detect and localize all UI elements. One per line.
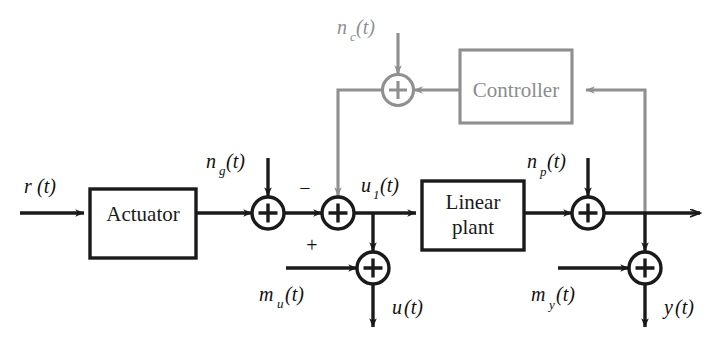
block-linear-plant: Linear plant [422, 181, 524, 250]
label-plant-noise-sub: p [539, 164, 547, 179]
summing-junction-error [322, 197, 354, 229]
label-control-input-arg: (t) [380, 174, 399, 197]
summing-junction-input-measurement [357, 252, 389, 284]
summing-junction-output-measurement [629, 252, 661, 284]
label-control-input-base: u [361, 174, 371, 196]
error-sum-minus-sign: − [299, 177, 310, 199]
block-controller: Controller [460, 50, 572, 123]
label-control-input-sub: 1 [373, 187, 380, 202]
error-sum-plus-sign: + [306, 234, 317, 256]
block-controller-label: Controller [473, 78, 559, 102]
label-measured-input-base: u [392, 296, 402, 318]
label-input-measurement-arg: (t) [285, 283, 304, 306]
label-output-measurement-sub: y [547, 297, 555, 312]
label-controller-noise-base: n [337, 16, 347, 38]
label-measured-input-arg: (t) [404, 296, 423, 319]
summing-junction-plant-noise [572, 197, 604, 229]
label-plant-noise-base: n [527, 150, 537, 172]
block-linear-plant-label-line2: plant [452, 215, 494, 239]
label-measured-input: u (t) [392, 296, 423, 319]
label-reference-base: r [24, 175, 32, 197]
label-reference: r (t) [24, 175, 56, 198]
label-input-measurement-base: m [259, 283, 273, 305]
label-measured-output: y (t) [662, 296, 694, 319]
block-actuator-label: Actuator [106, 202, 179, 226]
label-output-measurement-base: m [531, 283, 545, 305]
label-controller-noise-arg: (t) [356, 16, 375, 39]
label-plant-noise-arg: (t) [547, 150, 566, 173]
label-measured-output-arg: (t) [675, 296, 694, 319]
block-actuator: Actuator [90, 189, 196, 258]
control-system-block-diagram: Controller Actuator Linear plant [0, 0, 725, 351]
summing-junction-actuator-noise [252, 197, 284, 229]
label-input-measurement-sub: u [277, 296, 284, 311]
label-output-measurement-arg: (t) [556, 283, 575, 306]
label-actuator-noise-arg: (t) [226, 150, 245, 173]
label-reference-arg: (t) [37, 175, 56, 198]
label-actuator-noise-base: n [206, 150, 216, 172]
label-measured-output-base: y [662, 296, 673, 319]
summing-junction-controller-noise [383, 75, 414, 106]
label-actuator-noise-sub: g [219, 163, 226, 178]
block-linear-plant-label-line1: Linear [446, 190, 501, 214]
